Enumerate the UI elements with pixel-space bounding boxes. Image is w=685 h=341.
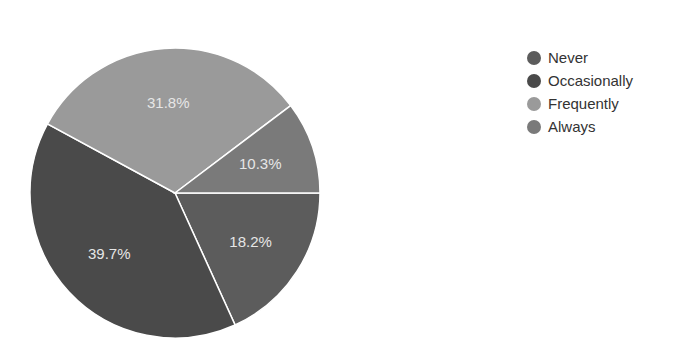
pie-slices [30,48,320,338]
legend-item-frequently[interactable]: Frequently [527,92,633,115]
legend-label: Never [548,49,588,66]
slice-percent-label: 10.3% [239,155,282,172]
slice-percent-label: 18.2% [229,233,272,250]
slice-percent-label: 39.7% [88,245,131,262]
legend-swatch-icon [527,120,541,134]
legend-item-occasionally[interactable]: Occasionally [527,69,633,92]
legend-swatch-icon [527,97,541,111]
legend-item-always[interactable]: Always [527,115,633,138]
legend-swatch-icon [527,74,541,88]
legend: Never Occasionally Frequently Always [527,46,633,138]
legend-label: Frequently [548,95,619,112]
slice-percent-label: 31.8% [147,94,190,111]
legend-label: Occasionally [548,72,633,89]
legend-label: Always [548,118,596,135]
legend-swatch-icon [527,51,541,65]
legend-item-never[interactable]: Never [527,46,633,69]
